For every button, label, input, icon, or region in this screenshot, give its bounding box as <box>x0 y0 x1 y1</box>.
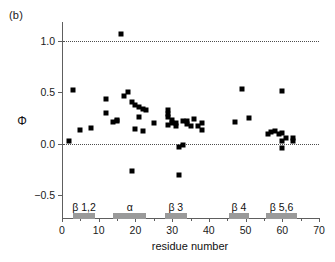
plot-area: −0.50.00.51.0 010203040506070 β 1,2αβ 3β… <box>62 22 319 218</box>
x-axis-minor-tick <box>301 218 302 221</box>
data-point <box>137 114 142 119</box>
reference-line <box>63 41 319 42</box>
secondary-structure-label: β 3 <box>168 201 183 213</box>
x-axis-tick <box>99 218 100 222</box>
data-point <box>199 128 204 133</box>
panel-label: (b) <box>9 9 23 21</box>
figure-panel-b: (b) −0.50.00.51.0 010203040506070 β 1,2α… <box>0 0 335 262</box>
x-axis-minor-tick <box>154 218 155 221</box>
data-point <box>291 138 296 143</box>
secondary-structure-bar <box>73 213 95 219</box>
data-point <box>283 135 288 140</box>
data-point <box>151 121 156 126</box>
y-axis-tick-label: 0.0 <box>40 138 55 150</box>
secondary-structure-bar <box>266 213 297 219</box>
secondary-structure-label: β 4 <box>232 201 247 213</box>
data-point <box>115 118 120 123</box>
y-axis-line <box>62 22 63 218</box>
data-point <box>133 127 138 132</box>
data-point <box>239 87 244 92</box>
data-point <box>89 126 94 131</box>
x-axis-tick <box>319 218 320 222</box>
y-axis-tick <box>58 41 62 42</box>
data-point <box>144 107 149 112</box>
x-axis-tick <box>62 218 63 222</box>
y-axis-title: Φ <box>17 114 27 128</box>
data-point <box>118 32 123 37</box>
x-axis-tick-label: 20 <box>130 224 142 236</box>
data-point <box>177 172 182 177</box>
x-axis-tick <box>209 218 210 222</box>
x-axis-tick-label: 50 <box>240 224 252 236</box>
x-axis-tick-label: 70 <box>313 224 325 236</box>
secondary-structure-bar <box>229 213 249 219</box>
data-point <box>78 128 83 133</box>
data-point <box>280 89 285 94</box>
data-point <box>104 97 109 102</box>
y-axis-tick-label: 0.5 <box>40 86 55 98</box>
x-axis-tick-label: 0 <box>59 224 65 236</box>
y-axis-tick <box>58 195 62 196</box>
secondary-structure-label: α <box>127 201 133 213</box>
data-point <box>280 145 285 150</box>
x-axis-tick-label: 10 <box>93 224 105 236</box>
x-axis-minor-tick <box>191 218 192 221</box>
y-axis-tick <box>58 144 62 145</box>
data-point <box>126 90 131 95</box>
y-axis-tick-label: 1.0 <box>40 35 55 47</box>
secondary-structure-label: β 1,2 <box>72 201 96 213</box>
data-point <box>199 121 204 126</box>
data-point <box>192 116 197 121</box>
data-point <box>181 142 186 147</box>
data-point <box>247 115 252 120</box>
x-axis-tick-label: 30 <box>166 224 178 236</box>
data-point <box>188 124 193 129</box>
data-point <box>71 88 76 93</box>
secondary-structure-label: β 5,6 <box>270 201 294 213</box>
y-axis-tick-label: −0.5 <box>34 189 55 201</box>
y-axis-tick <box>58 92 62 93</box>
data-point <box>140 129 145 134</box>
data-point <box>129 168 134 173</box>
x-axis-minor-tick <box>227 218 228 221</box>
data-point <box>104 110 109 115</box>
data-point <box>67 138 72 143</box>
data-point <box>173 121 178 126</box>
secondary-structure-bar <box>113 213 146 219</box>
secondary-structure-bar <box>165 213 187 219</box>
data-point <box>232 120 237 125</box>
x-axis-tick-label: 60 <box>276 224 288 236</box>
x-axis-tick-label: 40 <box>203 224 215 236</box>
x-axis-title: residue number <box>152 240 228 252</box>
